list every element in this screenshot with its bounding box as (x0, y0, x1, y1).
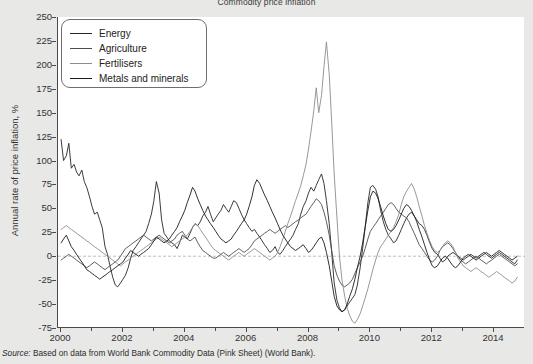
x-tick-mark (369, 328, 370, 332)
y-tick-mark (52, 17, 56, 18)
y-tick-label: 75 (41, 179, 52, 189)
x-tick-mark (122, 328, 123, 332)
y-tick-mark (52, 184, 56, 185)
x-tick-label: 2000 (40, 332, 80, 343)
x-minor-tick-mark (215, 328, 216, 331)
source-note: Source: Based on data from World Bank Co… (2, 348, 315, 358)
y-tick-label: 200 (36, 60, 52, 70)
y-tick-mark (52, 280, 56, 281)
x-tick-mark (308, 328, 309, 332)
legend-item-metals-and-minerals[interactable]: Metals and minerals (70, 71, 188, 86)
x-tick-label: 2012 (411, 332, 451, 343)
legend-line-icon (70, 63, 92, 64)
y-tick-mark (52, 328, 56, 329)
legend-item-energy[interactable]: Energy (70, 26, 131, 41)
y-tick-label: 150 (36, 108, 52, 118)
y-tick-label: -25 (38, 275, 52, 285)
series-line-energy (61, 139, 517, 311)
legend-item-label: Energy (99, 28, 131, 39)
source-text: Based on data from World Bank Commodity … (31, 348, 316, 358)
x-minor-tick-mark (400, 328, 401, 331)
chart-title: Commodity price inflation (0, 0, 533, 8)
y-tick-mark (52, 113, 56, 114)
x-tick-label: 2010 (349, 332, 389, 343)
legend-item-agriculture[interactable]: Agriculture (70, 41, 147, 56)
y-tick-mark (52, 137, 56, 138)
x-tick-label: 2014 (473, 332, 513, 343)
legend-item-label: Metals and minerals (99, 73, 188, 84)
y-tick-label: 25 (41, 227, 52, 237)
series-line-agriculture (61, 199, 517, 287)
y-tick-label: 250 (36, 12, 52, 22)
x-tick-mark (184, 328, 185, 332)
y-tick-label: 50 (41, 203, 52, 213)
source-label: Source: (2, 348, 31, 358)
y-axis-title: Annual rate of price inflation, % (9, 71, 20, 271)
x-minor-tick-mark (91, 328, 92, 331)
y-tick-mark (52, 208, 56, 209)
x-tick-label: 2004 (164, 332, 204, 343)
y-tick-label: -50 (38, 299, 52, 309)
x-tick-mark (246, 328, 247, 332)
legend-line-icon (70, 33, 92, 34)
y-tick-label: 175 (36, 84, 52, 94)
x-minor-tick-mark (338, 328, 339, 331)
y-tick-label: 125 (36, 132, 52, 142)
legend-item-label: Agriculture (99, 43, 147, 54)
x-tick-label: 2006 (226, 332, 266, 343)
y-tick-mark (52, 89, 56, 90)
x-tick-mark (493, 328, 494, 332)
legend-line-icon (70, 78, 92, 79)
y-tick-mark (52, 41, 56, 42)
x-tick-mark (431, 328, 432, 332)
legend-line-icon (70, 48, 92, 49)
x-minor-tick-mark (153, 328, 154, 331)
y-tick-mark (52, 232, 56, 233)
y-tick-mark (52, 65, 56, 66)
x-tick-label: 2002 (102, 332, 142, 343)
y-tick-label: 225 (36, 36, 52, 46)
y-tick-mark (52, 304, 56, 305)
x-tick-mark (60, 328, 61, 332)
x-minor-tick-mark (462, 328, 463, 331)
legend-item-label: Fertilisers (99, 58, 142, 69)
legend-item-fertilisers[interactable]: Fertilisers (70, 56, 142, 71)
legend: EnergyAgricultureFertilisersMetals and m… (61, 19, 207, 88)
figure-container: Commodity price inflation 25022520017515… (0, 0, 533, 364)
y-tick-mark (52, 256, 56, 257)
x-tick-label: 2008 (288, 332, 328, 343)
y-tick-mark (52, 161, 56, 162)
y-tick-label: 100 (36, 156, 52, 166)
x-minor-tick-mark (277, 328, 278, 331)
